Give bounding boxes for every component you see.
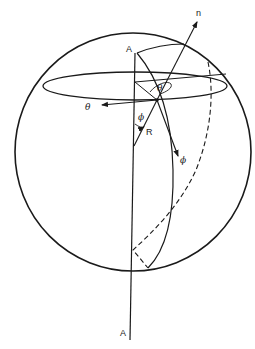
label-phi-arrow: ϕ [180, 155, 186, 165]
label-radius-r: R [146, 127, 153, 137]
sphere-diagram: A A n θ θ ϕ ϕ R [0, 0, 255, 349]
meridian-solid [137, 44, 184, 268]
phi-vector [157, 100, 178, 156]
label-normal-n: n [196, 8, 201, 18]
surface-point [155, 98, 159, 102]
label-axis-top: A [126, 44, 132, 54]
meridian-dashed [133, 62, 211, 268]
rotation-axis [130, 53, 135, 340]
label-theta-angle: θ [157, 83, 163, 93]
theta-vector [102, 100, 157, 105]
normal-vector-n [157, 22, 197, 100]
label-theta-arrow: θ [85, 102, 91, 112]
label-axis-bottom: A [120, 328, 126, 338]
radius-line [134, 100, 157, 146]
label-phi-angle: ϕ [138, 112, 144, 122]
construction-line-2 [135, 82, 157, 100]
phi-angle-arc [135, 124, 144, 127]
